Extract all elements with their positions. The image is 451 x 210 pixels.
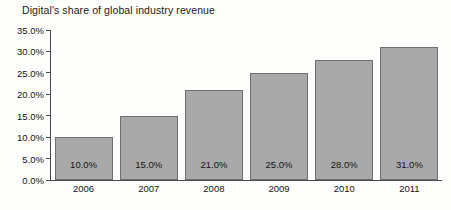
x-axis-labels: 200620072008200920102011	[51, 183, 442, 194]
bar[interactable]: 15.0%	[120, 116, 178, 180]
bar-value-label: 10.0%	[56, 159, 112, 170]
x-axis-category-label: 2010	[312, 183, 377, 194]
bar[interactable]: 10.0%	[55, 137, 113, 180]
y-axis-tick-label: 35.0%	[17, 25, 51, 36]
y-axis-tick-label: 0.0%	[22, 175, 51, 186]
y-axis-tick-label: 10.0%	[17, 132, 51, 143]
bar-value-label: 15.0%	[121, 159, 177, 170]
bar-group: 10.0%	[51, 30, 116, 180]
bar-value-label: 28.0%	[316, 159, 372, 170]
x-axis-category-label: 2006	[51, 183, 116, 194]
bar-group: 28.0%	[312, 30, 377, 180]
bar-group: 21.0%	[181, 30, 246, 180]
bar[interactable]: 21.0%	[185, 90, 243, 180]
bar-group: 15.0%	[116, 30, 181, 180]
y-axis-tick-label: 5.0%	[22, 153, 51, 164]
y-axis-tick-label: 15.0%	[17, 110, 51, 121]
y-axis-tick-label: 30.0%	[17, 46, 51, 57]
bar[interactable]: 25.0%	[250, 73, 308, 180]
x-axis-line	[50, 180, 442, 181]
chart-title: Digital's share of global industry reven…	[22, 4, 215, 16]
bar-group: 25.0%	[247, 30, 312, 180]
y-axis-tick-label: 20.0%	[17, 89, 51, 100]
x-axis-category-label: 2011	[377, 183, 442, 194]
bar-value-label: 25.0%	[251, 159, 307, 170]
bar-value-label: 21.0%	[186, 159, 242, 170]
plot-area: 35.0%30.0%25.0%20.0%15.0%10.0%5.0%0.0% 1…	[51, 30, 442, 180]
x-axis-category-label: 2009	[247, 183, 312, 194]
y-axis-tick-label: 25.0%	[17, 67, 51, 78]
bar-value-label: 31.0%	[381, 159, 437, 170]
x-axis-category-label: 2008	[181, 183, 246, 194]
bars-layer: 10.0%15.0%21.0%25.0%28.0%31.0%	[51, 30, 442, 180]
bar-chart-figure: Digital's share of global industry reven…	[0, 0, 451, 210]
bar[interactable]: 31.0%	[380, 47, 438, 180]
x-axis-category-label: 2007	[116, 183, 181, 194]
bar[interactable]: 28.0%	[315, 60, 373, 180]
bar-group: 31.0%	[377, 30, 442, 180]
